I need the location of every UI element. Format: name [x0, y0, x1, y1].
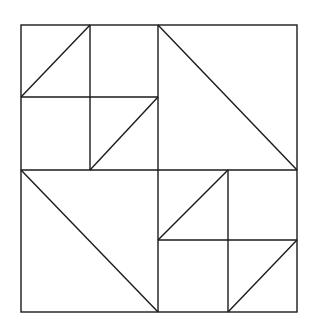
- top-right-quadrant: [158, 25, 297, 170]
- tl-diagonal-lower: [90, 97, 158, 170]
- bl-diagonal: [21, 170, 158, 312]
- bottom-right-quadrant: [158, 170, 297, 312]
- tr-diagonal: [158, 25, 297, 170]
- br-diagonal-upper: [158, 170, 228, 240]
- outer-square: [21, 25, 297, 312]
- br-diagonal-lower: [228, 240, 297, 312]
- top-left-quadrant: [21, 25, 158, 170]
- quilt-block-diagram: [0, 0, 314, 327]
- tl-diagonal-upper: [21, 25, 90, 97]
- bottom-left-quadrant: [21, 170, 158, 312]
